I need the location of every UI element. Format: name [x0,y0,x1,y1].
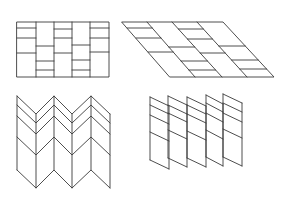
folding-diagram-canvas [0,0,285,198]
background [0,0,285,198]
